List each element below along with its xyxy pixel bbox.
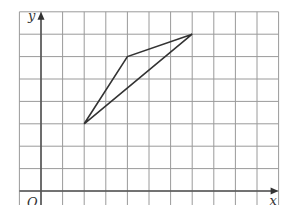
grid-lines: [19, 12, 278, 205]
x-axis-label: x: [270, 193, 278, 205]
origin-label: O: [27, 195, 38, 205]
coordinate-diagram: x y O: [0, 0, 294, 205]
y-axis-label: y: [27, 8, 36, 23]
y-axis-arrow-icon: [38, 12, 45, 20]
